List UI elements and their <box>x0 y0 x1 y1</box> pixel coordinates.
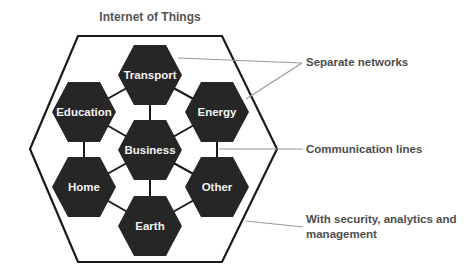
label-security-line1: With security, analytics and <box>306 212 457 227</box>
node-earth: Earth <box>118 196 182 256</box>
node-education: Education <box>52 82 116 142</box>
leader-separate-networks-1 <box>178 58 302 63</box>
svg-text:Earth: Earth <box>135 220 164 232</box>
label-communication-lines: Communication lines <box>306 142 422 157</box>
label-security-analytics: With security, analytics and management <box>306 212 457 242</box>
svg-text:Home: Home <box>68 181 100 193</box>
label-security-line2: management <box>306 227 457 242</box>
node-other: Other <box>185 157 249 217</box>
leader-security <box>246 221 303 227</box>
svg-text:Other: Other <box>202 181 233 193</box>
node-business: Business <box>118 120 182 180</box>
node-home: Home <box>52 157 116 217</box>
svg-text:Transport: Transport <box>123 69 176 81</box>
svg-text:Energy: Energy <box>198 106 238 118</box>
leader-separate-networks-2 <box>246 63 302 99</box>
svg-text:Business: Business <box>124 144 175 156</box>
node-transport: Transport <box>118 45 182 105</box>
svg-text:Education: Education <box>56 106 112 118</box>
node-energy: Energy <box>185 82 249 142</box>
label-separate-networks: Separate networks <box>306 55 408 70</box>
